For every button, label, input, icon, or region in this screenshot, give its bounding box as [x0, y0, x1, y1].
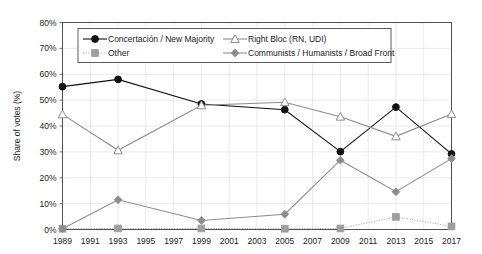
- x-tick-label: 2001: [220, 236, 239, 246]
- data-point-marker: [448, 223, 455, 230]
- x-tick-label: 1989: [53, 236, 72, 246]
- x-tick-label: 2015: [414, 236, 433, 246]
- chart-legend: Concertación / New MajorityRight Bloc (R…: [78, 29, 395, 63]
- legend-label: Other: [108, 48, 129, 58]
- legend-label: Right Bloc (RN, UDI): [248, 34, 327, 44]
- x-tick-label: 1991: [81, 236, 100, 246]
- data-point-marker: [337, 225, 344, 232]
- x-tick-label: 2013: [386, 236, 405, 246]
- data-point-marker: [281, 225, 288, 232]
- data-point-marker: [337, 148, 344, 155]
- data-point-marker: [92, 36, 99, 43]
- x-axis-tick-labels: 1989199119931995199719992001200320052007…: [53, 236, 461, 246]
- data-point-marker: [114, 146, 123, 154]
- data-point-marker: [392, 188, 400, 196]
- x-tick-label: 1993: [109, 236, 128, 246]
- y-tick-label: 40%: [39, 121, 56, 131]
- y-tick-label: 10%: [39, 199, 56, 209]
- y-axis-title-label: Share of votes (%): [12, 91, 22, 162]
- x-tick-label: 1999: [192, 236, 211, 246]
- x-tick-label: 2005: [275, 236, 294, 246]
- data-point-marker: [393, 213, 400, 220]
- data-point-marker: [115, 225, 122, 232]
- data-point-marker: [281, 106, 288, 113]
- legend-item-communists-humanists-broad-front[interactable]: Communists / Humanists / Broad Front: [223, 48, 395, 58]
- data-point-marker: [447, 110, 456, 118]
- x-tick-label: 2011: [359, 236, 378, 246]
- x-tick-label: 2017: [442, 236, 461, 246]
- y-tick-label: 20%: [39, 173, 56, 183]
- y-tick-label: 80%: [39, 18, 56, 28]
- data-point-marker: [92, 50, 99, 57]
- data-point-marker: [115, 76, 122, 83]
- data-point-marker: [393, 104, 400, 111]
- y-tick-label: 30%: [39, 147, 56, 157]
- x-tick-label: 1995: [136, 236, 155, 246]
- data-point-marker: [114, 196, 122, 204]
- y-tick-label: 70%: [39, 43, 56, 53]
- data-point-marker: [58, 110, 67, 118]
- y-tick-label: 60%: [39, 69, 56, 79]
- data-point-marker: [59, 83, 66, 90]
- legend-label: Concertación / New Majority: [108, 34, 215, 44]
- data-point-marker: [198, 217, 206, 225]
- legend-label: Communists / Humanists / Broad Front: [248, 48, 395, 58]
- data-point-marker: [392, 132, 401, 140]
- y-tick-label: 0%: [44, 225, 57, 235]
- y-axis-tick-labels: 0%10%20%30%40%50%60%70%80%: [39, 18, 62, 235]
- y-axis-title: Share of votes (%): [12, 91, 22, 162]
- line-chart: 0%10%20%30%40%50%60%70%80% 1989199119931…: [0, 0, 482, 254]
- x-tick-label: 2009: [331, 236, 350, 246]
- x-tick-label: 1997: [164, 236, 183, 246]
- y-tick-label: 50%: [39, 95, 56, 105]
- data-point-marker: [198, 225, 205, 232]
- x-tick-label: 2003: [248, 236, 267, 246]
- x-tick-label: 2007: [303, 236, 322, 246]
- chart-container: 0%10%20%30%40%50%60%70%80% 1989199119931…: [0, 0, 482, 254]
